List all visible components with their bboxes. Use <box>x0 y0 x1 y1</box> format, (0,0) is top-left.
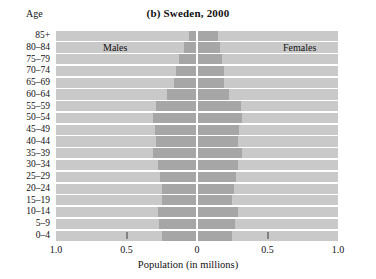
bar-male <box>158 207 197 217</box>
bar-male <box>184 42 197 52</box>
age-group-label: 85+ <box>0 30 53 42</box>
bar-female <box>197 89 229 99</box>
age-group-label: 65–69 <box>0 77 53 89</box>
bar-female <box>197 184 234 194</box>
bar-female <box>197 54 222 64</box>
bar-male <box>156 101 197 111</box>
x-axis: 1.00.500.51.0 <box>56 242 338 258</box>
age-group-label: 30–34 <box>0 159 53 171</box>
bar-male <box>155 125 197 135</box>
age-group-label: 5–9 <box>0 218 53 230</box>
bar-female <box>197 207 238 217</box>
bar-female <box>197 78 224 88</box>
bar-female <box>197 31 218 41</box>
legend-females: Females <box>283 42 316 53</box>
age-group-label: 0–4 <box>0 230 53 242</box>
age-group-label: 10–14 <box>0 206 53 218</box>
x-axis-tick-label: 0.5 <box>261 244 274 255</box>
bar-male <box>160 172 197 182</box>
bar-male <box>167 89 197 99</box>
age-axis-header: Age <box>26 8 43 19</box>
chart-title: (b) Sweden, 2000 <box>0 7 376 19</box>
age-group-label: 20–24 <box>0 183 53 195</box>
bar-male <box>158 160 197 170</box>
x-axis-tick-mark <box>126 232 127 239</box>
legend-males: Males <box>103 42 127 53</box>
bar-female <box>197 101 241 111</box>
bar-female <box>197 42 220 52</box>
zero-axis-line <box>196 30 198 242</box>
age-group-label: 70–74 <box>0 65 53 77</box>
x-axis-tick-label: 1.0 <box>332 244 345 255</box>
plot-area <box>56 30 338 242</box>
x-axis-title: Population (in millions) <box>0 259 376 270</box>
age-group-label: 25–29 <box>0 171 53 183</box>
age-group-label: 15–19 <box>0 195 53 207</box>
age-group-label: 50–54 <box>0 112 53 124</box>
bar-male <box>162 195 197 205</box>
bar-male <box>174 78 197 88</box>
bar-male <box>156 136 197 146</box>
bar-female <box>197 219 235 229</box>
age-group-label: 75–79 <box>0 54 53 66</box>
bar-female <box>197 148 242 158</box>
bar-female <box>197 172 236 182</box>
bar-female <box>197 125 239 135</box>
x-axis-tick-label: 0.5 <box>120 244 133 255</box>
population-pyramid-figure: (b) Sweden, 2000 Age 85+80–8475–7970–746… <box>0 0 376 279</box>
bar-female <box>197 231 232 241</box>
x-axis-tick-label: 0 <box>195 244 200 255</box>
bar-male <box>153 148 197 158</box>
x-axis-tick-mark <box>267 232 268 239</box>
bar-female <box>197 136 238 146</box>
age-group-label: 35–39 <box>0 148 53 160</box>
bar-male <box>162 231 197 241</box>
age-group-label: 60–64 <box>0 89 53 101</box>
bar-male <box>179 54 197 64</box>
bar-female <box>197 66 224 76</box>
bar-male <box>176 66 197 76</box>
bar-male <box>159 219 197 229</box>
age-group-label: 55–59 <box>0 101 53 113</box>
bar-male <box>153 113 197 123</box>
age-group-labels: 85+80–8475–7970–7465–6960–6455–5950–5445… <box>0 30 53 242</box>
bar-female <box>197 113 242 123</box>
age-group-label: 45–49 <box>0 124 53 136</box>
bar-female <box>197 160 238 170</box>
bar-male <box>162 184 197 194</box>
age-group-label: 40–44 <box>0 136 53 148</box>
age-group-label: 80–84 <box>0 42 53 54</box>
bar-female <box>197 195 232 205</box>
x-axis-tick-label: 1.0 <box>50 244 63 255</box>
